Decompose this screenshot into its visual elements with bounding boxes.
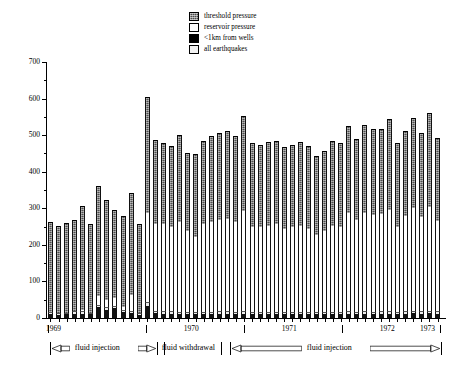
- bar-segment-reservoir-pressure: [314, 235, 319, 318]
- bar-segment-reservoir-pressure: [177, 222, 182, 318]
- period-label: fluid withdrawal: [162, 341, 215, 355]
- y-axis-tick: [42, 62, 46, 63]
- bar-segment-reservoir-pressure: [427, 207, 432, 318]
- x-axis-minor-tick: [91, 319, 92, 322]
- y-axis-minor-tick: [44, 300, 46, 301]
- x-axis-minor-tick: [317, 319, 318, 322]
- bar-segment-wells: [225, 314, 230, 318]
- bar: [161, 143, 166, 318]
- bar-segment-threshold-pressure: [346, 126, 351, 212]
- bar-segment-wells: [217, 314, 222, 318]
- bar-segment-wells: [169, 314, 174, 318]
- bar-segment-wells: [379, 314, 384, 318]
- bar-segment-wells: [274, 314, 279, 318]
- bar-segment-wells: [362, 314, 367, 318]
- x-axis-minor-tick: [83, 319, 84, 322]
- x-axis-minor-tick: [99, 319, 100, 322]
- bar-segment-wells: [395, 314, 400, 318]
- x-axis-tick-labels: [0, 322, 467, 336]
- bar-segment-threshold-pressure: [411, 118, 416, 209]
- period-end-cap: [230, 342, 231, 355]
- x-axis-minor-tick: [107, 319, 108, 322]
- bar: [274, 141, 279, 318]
- x-axis-minor-tick: [131, 319, 132, 322]
- x-axis-minor-tick: [284, 319, 285, 322]
- bar: [314, 156, 319, 318]
- bar-segment-threshold-pressure: [290, 145, 295, 227]
- bar-segment-wells: [193, 314, 198, 318]
- bar: [241, 116, 246, 318]
- bar-segment-threshold-pressure: [233, 136, 238, 222]
- x-axis-minor-tick: [67, 319, 68, 322]
- bar-segment-reservoir-pressure: [233, 222, 238, 318]
- x-axis-minor-tick: [429, 319, 430, 322]
- bar: [72, 220, 77, 318]
- bar: [169, 146, 174, 318]
- y-axis-minor-tick: [44, 153, 46, 154]
- left-arrow-icon: [232, 343, 302, 354]
- y-axis-tick-label: 400: [10, 168, 40, 176]
- x-axis-minor-tick: [357, 319, 358, 322]
- bar-segment-reservoir-pressure: [346, 213, 351, 318]
- bar-segment-wells: [411, 313, 416, 318]
- x-axis-minor-tick: [115, 319, 116, 322]
- bar: [266, 142, 271, 318]
- period-end-cap: [157, 342, 158, 355]
- x-axis-minor-tick: [252, 319, 253, 322]
- bar-segment-reservoir-pressure: [419, 217, 424, 318]
- y-axis-tick: [42, 99, 46, 100]
- bar: [96, 186, 101, 318]
- bar-segment-wells: [56, 315, 61, 318]
- legend-label: reservoir pressure: [204, 23, 255, 32]
- bar: [330, 141, 335, 318]
- x-axis-minor-tick: [236, 319, 237, 322]
- bar-segment-threshold-pressure: [161, 143, 166, 223]
- y-axis-tick-label: 500: [10, 131, 40, 139]
- bar-segment-threshold-pressure: [258, 145, 263, 227]
- bar: [379, 129, 384, 318]
- bar-segment-wells: [177, 314, 182, 318]
- bar-segment-threshold-pressure: [241, 116, 246, 211]
- bar-segment-threshold-pressure: [185, 153, 190, 231]
- y-axis-tick: [42, 245, 46, 246]
- bar-segment-wells: [185, 314, 190, 318]
- bar: [209, 136, 214, 318]
- bar-segment-wells: [96, 307, 101, 318]
- legend-item-wells: <1km from wells: [189, 33, 319, 43]
- bar: [362, 125, 367, 318]
- period-annotation: fluid injection: [50, 341, 158, 357]
- bar-segment-threshold-pressure: [314, 156, 319, 234]
- x-axis-minor-tick: [228, 319, 229, 322]
- x-axis-minor-tick: [171, 319, 172, 322]
- x-axis-minor-tick: [309, 319, 310, 322]
- x-axis-minor-tick: [405, 319, 406, 322]
- y-axis-minor-tick: [44, 263, 46, 264]
- bar: [129, 193, 134, 318]
- bar: [258, 145, 263, 318]
- bar-segment-reservoir-pressure: [379, 214, 384, 318]
- y-axis-minor-tick: [44, 117, 46, 118]
- bar-segment-threshold-pressure: [72, 220, 77, 318]
- y-axis-tick: [42, 172, 46, 173]
- bar: [435, 138, 440, 318]
- period-end-cap: [50, 342, 51, 355]
- x-axis-minor-tick: [276, 319, 277, 322]
- x-axis-minor-tick: [139, 319, 140, 322]
- bar-segment-wells: [427, 313, 432, 318]
- bar-segment-wells: [298, 314, 303, 318]
- period-end-cap: [221, 342, 222, 355]
- bar-segment-reservoir-pressure: [185, 231, 190, 318]
- bar-segment-wells: [112, 308, 117, 318]
- bar-segment-threshold-pressure: [217, 133, 222, 220]
- x-axis-minor-tick: [333, 319, 334, 322]
- bar-segment-threshold-pressure: [64, 223, 69, 318]
- y-axis-tick-label: 600: [10, 95, 40, 103]
- bar-segment-threshold-pressure: [201, 141, 206, 224]
- bar: [153, 140, 158, 318]
- legend-swatch-reservoir-icon: [189, 23, 199, 32]
- bar: [298, 142, 303, 318]
- bar-segment-reservoir-pressure: [371, 215, 376, 318]
- bar-segment-wells: [48, 314, 53, 318]
- bar-segment-wells: [346, 314, 351, 318]
- bar: [411, 118, 416, 318]
